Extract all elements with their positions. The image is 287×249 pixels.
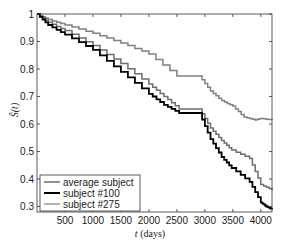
y-tick-label: 0.7: [20, 91, 34, 102]
legend-label: subject #275: [63, 199, 120, 210]
y-axis-title: Ŝ(t): [9, 102, 21, 117]
legend-label: subject #100: [63, 188, 120, 199]
x-tick-label: 3500: [222, 215, 245, 226]
x-tick-label: 3000: [194, 215, 217, 226]
y-tick-label: 0.9: [20, 36, 34, 47]
x-tick-label: 1000: [82, 215, 105, 226]
legend-label: average subject: [63, 177, 134, 188]
y-tick-label: 0.8: [20, 64, 34, 75]
survival-chart: 5001000150020002500300035004000 0.30.40.…: [0, 0, 287, 249]
x-axis-title: t (days): [135, 228, 165, 240]
y-tick-label: 1: [28, 9, 34, 20]
y-tick-label: 0.6: [20, 119, 34, 130]
x-tick-label: 500: [57, 215, 74, 226]
x-tick-label: 2500: [166, 215, 189, 226]
y-tick-label: 0.5: [20, 146, 34, 157]
legend: average subjectsubject #100subject #275: [40, 175, 140, 211]
x-tick-label: 2000: [138, 215, 161, 226]
y-tick-label: 0.3: [20, 201, 34, 212]
x-tick-label: 1500: [110, 215, 133, 226]
x-tick-label: 4000: [250, 215, 273, 226]
y-tick-label: 0.4: [20, 174, 34, 185]
series-line: [37, 14, 272, 190]
